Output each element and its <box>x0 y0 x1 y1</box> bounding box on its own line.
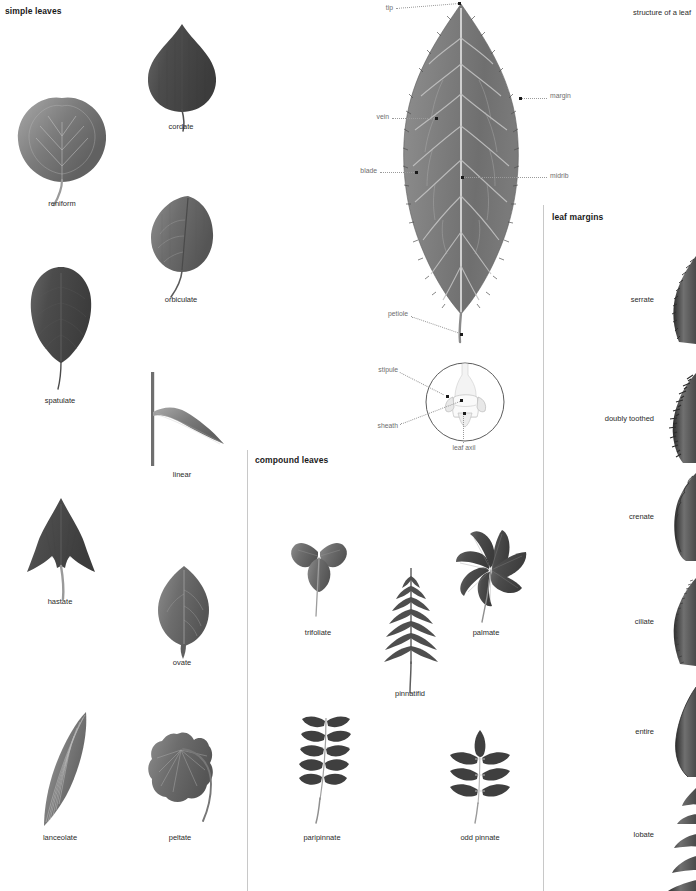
leaf-figure-trifoliate <box>286 508 352 624</box>
caption-ovate: ovate <box>173 658 191 667</box>
leaf-figure-ovate <box>153 564 213 660</box>
anchor-stipule <box>446 395 449 398</box>
leaf-figure-orbiculate <box>148 194 216 298</box>
callout-sheath: sheath <box>378 422 398 429</box>
caption-lanceolate: lanceolate <box>43 833 77 842</box>
heading-compound-leaves: compound leaves <box>255 455 328 465</box>
caption-hastate: hastate <box>48 597 73 606</box>
anchor-tip <box>458 2 461 5</box>
caption-trifoliate: trifoliate <box>305 628 331 637</box>
heading-leaf-margins: leaf margins <box>552 212 603 222</box>
caption-lobate: lobate <box>634 830 654 839</box>
leader-leaf-axil <box>463 413 464 443</box>
margin-figure-lobate <box>662 788 696 891</box>
leaf-figure-odd-pinnate <box>440 728 520 824</box>
leaf-figure-cordate <box>145 22 219 132</box>
caption-crenate: crenate <box>629 512 654 521</box>
caption-palmate: palmate <box>473 628 500 637</box>
leaf-figure-hastate <box>24 496 98 600</box>
leaf-figure-linear <box>150 372 226 468</box>
leaf-figure-palmate <box>448 518 532 626</box>
callout-stipule: stipule <box>378 366 398 373</box>
margin-figure-entire <box>669 687 696 777</box>
leaf-chart-canvas: simple leaves compound leaves leaf margi… <box>0 0 696 891</box>
callout-petiole: petiole <box>388 310 408 317</box>
anchor-petiole <box>460 333 463 336</box>
leaf-figure-reniform <box>12 88 112 206</box>
leader-blade <box>380 172 416 173</box>
leaf-figure-paripinnate <box>290 708 360 824</box>
callout-vein: vein <box>377 113 389 120</box>
caption-orbiculate: orbiculate <box>165 295 198 304</box>
margin-figure-crenate <box>668 473 696 561</box>
callout-blade: blade <box>360 167 377 174</box>
margin-figure-serrate <box>667 256 696 344</box>
anchor-vein <box>435 117 438 120</box>
caption-reniform: reniform <box>48 199 76 208</box>
caption-odd-pinnate: odd pinnate <box>460 833 499 842</box>
anchor-margin <box>519 97 522 100</box>
callout-margin: margin <box>550 92 571 99</box>
leaf-figure-spatulate <box>26 265 96 390</box>
leaf-figure-peltate <box>143 730 221 822</box>
caption-peltate: peltate <box>169 833 192 842</box>
caption-cordate: cordate <box>168 122 193 131</box>
heading-structure-of-a-leaf: structure of a leaf <box>633 8 691 17</box>
leaf-figure-lanceolate <box>30 710 92 828</box>
anchor-leaf-axil <box>463 412 466 415</box>
anchor-blade <box>415 171 418 174</box>
callout-tip: tip <box>386 4 393 11</box>
margin-figure-ciliate <box>667 578 696 666</box>
caption-ciliate: ciliate <box>635 617 654 626</box>
caption-serrate: serrate <box>631 295 654 304</box>
anchor-sheath <box>460 399 463 402</box>
leader-midrib <box>463 177 547 178</box>
divider-compound-left <box>247 450 248 891</box>
leader-vein <box>392 118 436 119</box>
anchor-midrib <box>461 176 464 179</box>
leader-margin <box>522 98 547 99</box>
caption-spatulate: spatulate <box>45 396 75 405</box>
caption-pinnatifid: pinnatifid <box>395 689 425 698</box>
leaf-node-magnifier <box>424 361 506 443</box>
caption-linear: linear <box>173 470 191 479</box>
heading-simple-leaves: simple leaves <box>5 6 62 16</box>
callout-midrib: midrib <box>550 172 569 179</box>
caption-doubly-toothed: doubly toothed <box>605 414 654 423</box>
divider-margins-left <box>543 205 544 891</box>
caption-paripinnate: paripinnate <box>303 833 340 842</box>
leaf-figure-pinnatifid <box>380 568 442 694</box>
callout-leaf-axil: leaf axil <box>452 444 475 451</box>
caption-entire: entire <box>635 727 654 736</box>
margin-figure-doubly-toothed <box>665 373 696 463</box>
